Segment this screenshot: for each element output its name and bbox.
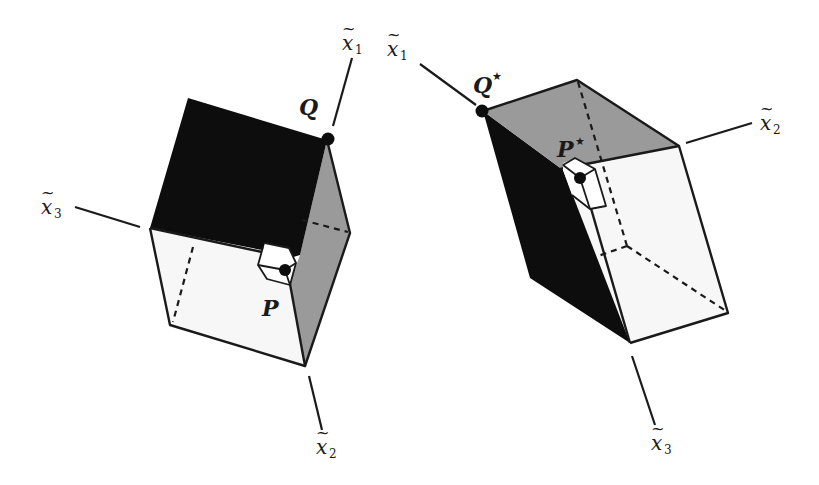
right-axis-x3-line — [632, 356, 655, 425]
left-label-q: Q — [299, 94, 318, 120]
svg-text:~: ~ — [41, 183, 54, 202]
right-axis-x2-label: x ~ 2 — [760, 99, 781, 137]
right-cube: x ~ 1 x ~ 2 x ~ 3 Q ★ P ★ — [387, 25, 781, 457]
svg-text:~: ~ — [387, 25, 400, 44]
right-point-p-star — [574, 172, 586, 184]
left-axis-x3-line — [75, 207, 140, 227]
right-point-q-star — [476, 105, 489, 118]
svg-text:~: ~ — [316, 423, 329, 442]
left-axis-x2-label: x ~ 2 — [316, 423, 337, 461]
svg-text:Q: Q — [473, 72, 492, 98]
right-label-q-star: Q ★ — [473, 70, 502, 98]
right-axis-x3-label: x ~ 3 — [651, 419, 672, 457]
right-axis-x1-label: x ~ 1 — [387, 25, 408, 63]
svg-text:★: ★ — [492, 70, 502, 83]
svg-text:~: ~ — [760, 99, 773, 118]
cube-transformation-diagram: x ~ 1 x ~ 3 x ~ 2 Q P — [0, 0, 819, 485]
svg-text:2: 2 — [329, 447, 337, 461]
left-axis-x3-label: x ~ 3 — [41, 183, 62, 221]
left-axis-x2-line — [309, 376, 322, 430]
svg-text:1: 1 — [355, 43, 363, 57]
left-axis-x1-label: x ~ 1 — [342, 19, 363, 57]
svg-text:~: ~ — [342, 19, 355, 38]
svg-text:~: ~ — [651, 419, 664, 438]
svg-text:1: 1 — [400, 49, 408, 63]
left-point-p — [279, 264, 291, 276]
svg-text:3: 3 — [54, 207, 62, 221]
left-label-p: P — [261, 295, 280, 321]
left-axis-x1-line — [333, 58, 352, 126]
left-cube: x ~ 1 x ~ 3 x ~ 2 Q P — [41, 19, 363, 461]
right-axis-x1-line — [420, 64, 476, 105]
svg-text:3: 3 — [664, 443, 672, 457]
right-axis-x2-line — [686, 123, 752, 143]
svg-text:P: P — [556, 136, 575, 162]
svg-text:2: 2 — [773, 123, 781, 137]
left-point-q — [322, 133, 335, 146]
svg-text:★: ★ — [575, 135, 585, 148]
